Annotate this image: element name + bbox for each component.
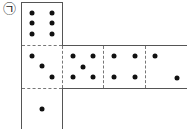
pip	[71, 75, 76, 80]
pip	[91, 75, 96, 80]
strip-top-edge	[62, 45, 187, 46]
pip	[81, 65, 86, 70]
fold-line	[103, 46, 104, 88]
pip	[50, 75, 55, 80]
fold-line	[22, 88, 62, 89]
net-label: ㉠	[1, 1, 17, 17]
pip	[153, 54, 158, 59]
pip	[40, 64, 45, 69]
strip-bottom-edge	[62, 88, 187, 89]
pip	[50, 21, 55, 26]
column-top-edge	[21, 2, 63, 3]
pip	[40, 107, 45, 112]
pip	[112, 75, 117, 80]
fold-line	[62, 46, 63, 88]
column-right-edge-bottom	[62, 88, 63, 129]
pip	[133, 54, 138, 59]
pip	[30, 32, 35, 37]
pip	[30, 54, 35, 59]
column-right-edge-top	[62, 2, 63, 45]
fold-line	[22, 45, 62, 46]
pip	[30, 11, 35, 16]
pip	[71, 54, 76, 59]
pip	[112, 54, 117, 59]
pip	[30, 21, 35, 26]
pip	[175, 76, 180, 81]
pip	[133, 75, 138, 80]
pip	[91, 54, 96, 59]
column-left-edge	[21, 2, 22, 129]
pip	[50, 11, 55, 16]
fold-line	[145, 46, 146, 88]
pip	[50, 32, 55, 37]
